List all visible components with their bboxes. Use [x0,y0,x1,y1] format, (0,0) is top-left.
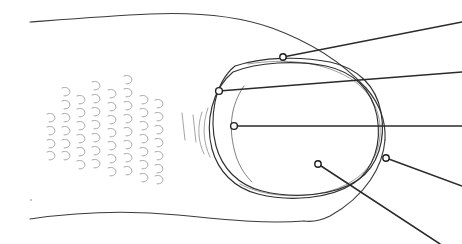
skin-ridge-tick [182,113,185,140]
skin-ridge-mark [155,175,163,183]
skin-ridge-arc-tick [199,112,204,154]
skin-ridge-mark [47,151,55,159]
skin-ridge-mark [155,99,163,107]
nail-proximal-fold-point-leader-line[interactable] [219,72,462,91]
skin-ridge-mark [124,75,132,83]
skin-ridge-mark [92,107,100,115]
skin-ridge-mark [155,112,163,120]
skin-ridge-mark [62,87,70,95]
nail-distal-pulp-point-leader-line[interactable] [318,164,440,244]
skin-ridge-mark [124,101,132,109]
skin-ridge-mark [62,139,70,147]
skin-ridge-mark [124,88,132,96]
skin-ridge-mark [124,153,132,161]
nail-proximal-dorsal-point[interactable] [280,22,462,60]
skin-ridge-mark [92,120,100,128]
skin-texture-group [30,75,210,201]
skin-ridge-mark [92,159,100,167]
skin-ridge-mark [124,127,132,135]
nail-distal-pulp-point[interactable] [315,161,440,244]
skin-ridge-mark [140,121,148,129]
nail-lateral-margin-point-leader-line[interactable] [386,158,462,186]
nail-bed-center-point-marker-icon[interactable] [231,123,238,130]
nail-lateral-margin-point-marker-icon[interactable] [383,155,389,161]
skin-ridge-mark [108,115,116,123]
nail-outer-capsule-second [209,63,378,199]
skin-ridge-mark [124,166,132,174]
skin-ridge-mark [108,141,116,149]
skin-ridge-mark [47,113,55,121]
skin-ridge-mark [124,114,132,122]
figure-canvas [0,0,462,244]
skin-ridge-mark [108,154,116,162]
skin-ridge-mark [92,146,100,154]
skin-ridge-mark [108,167,116,175]
skin-ridge-mark [155,151,163,159]
nail-proximal-dorsal-point-marker-icon[interactable] [280,54,286,60]
skin-ridge-mark [140,147,148,155]
nail-proximal-dorsal-point-leader-line[interactable] [283,22,462,57]
skin-ridge-mark [155,138,163,146]
nail-distal-pulp-point-marker-icon[interactable] [315,161,321,167]
skin-ridge-mark [77,108,85,116]
body-outline-bottom-edge [30,212,304,222]
skin-ridge-mark [140,173,148,181]
skin-ridge-mark [77,121,85,129]
skin-ridge-mark [108,102,116,110]
skin-ridge-mark [155,164,163,172]
skin-ridge-mark [47,139,55,147]
skin-ridge-mark [92,81,100,89]
skin-ridge-mark [155,125,163,133]
nail-lunula-arc [231,86,252,182]
nail-proximal-fold-point-marker-icon[interactable] [216,88,223,95]
nail-bed-center-point[interactable] [231,123,462,130]
skin-ridge-mark [92,94,100,102]
skin-ridge-mark [108,128,116,136]
skin-ridge-mark [140,108,148,116]
skin-ridge-mark [92,133,100,141]
skin-ridge-mark [62,100,70,108]
skin-ridge-tick [193,115,196,142]
ink-speck [30,199,32,201]
skin-ridge-mark [108,89,116,97]
skin-ridge-mark [62,113,70,121]
skin-ridge-mark [47,126,55,134]
skin-ridge-mark [77,134,85,142]
line-drawing-svg [0,0,462,244]
nail-proximal-fold-point[interactable] [216,72,462,94]
skin-ridge-mark [140,160,148,168]
skin-ridge-mark [77,147,85,155]
skin-ridge-mark [62,151,70,159]
skin-ridge-mark [140,95,148,103]
skin-ridge-mark [124,140,132,148]
skin-ridge-mark [140,134,148,142]
nail-lateral-margin-point[interactable] [383,155,462,186]
skin-ridge-mark [77,160,85,168]
skin-ridge-mark [62,126,70,134]
skin-ridge-mark [77,95,85,103]
